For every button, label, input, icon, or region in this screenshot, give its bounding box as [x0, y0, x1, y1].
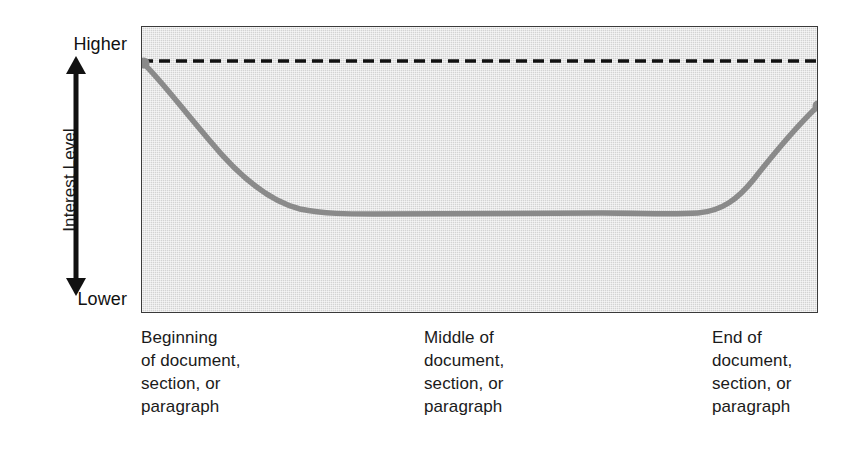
interest-level-curve [143, 63, 818, 214]
interest-level-chart-figure: Interest Level Higher Lower Beginning of… [0, 0, 860, 454]
y-axis-higher-label: Higher [0, 34, 127, 55]
y-axis-double-arrow-icon [58, 56, 94, 296]
x-axis-label-middle: Middle of document, section, or paragrap… [424, 326, 624, 418]
plot-svg [142, 27, 818, 313]
plot-area [141, 26, 818, 313]
x-axis-label-end: End of document, section, or paragraph [712, 326, 860, 418]
x-axis-label-beginning: Beginning of document, section, or parag… [141, 326, 341, 418]
